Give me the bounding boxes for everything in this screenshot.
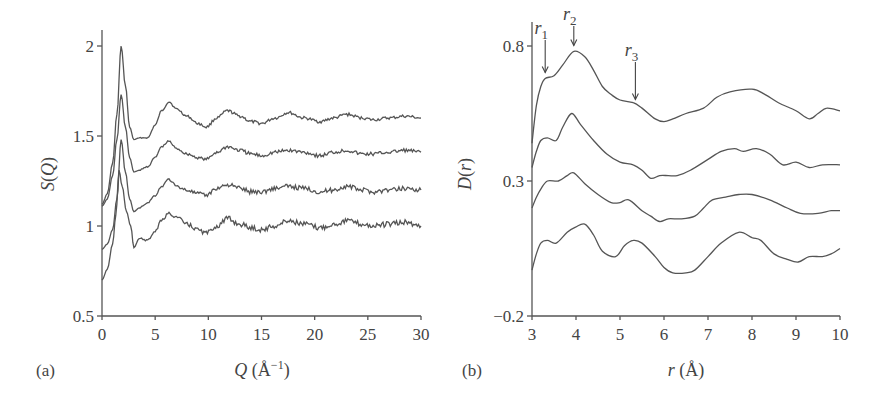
annotation-label-r2: r2 (563, 4, 577, 28)
x-tick-label: 0 (98, 325, 107, 344)
y-ticks-a: 0.511.52 (73, 37, 102, 326)
x-tick-label: 7 (704, 325, 713, 344)
curve-1 (102, 46, 421, 204)
panel-a-structure-factor: 0.511.52 051015202530 S(Q) Q (Å−1) (a) (36, 30, 430, 381)
x-ticks-a: 051015202530 (98, 316, 430, 344)
x-tick-label: 20 (306, 325, 323, 344)
curve-4 (102, 170, 421, 280)
x-tick-label: 9 (792, 325, 801, 344)
y-tick-label: 2 (86, 37, 95, 56)
curve-2 (532, 113, 840, 178)
y-tick-label: 1 (86, 217, 95, 236)
x-tick-label: 25 (359, 325, 376, 344)
y-axis-title-a: S(Q) (38, 157, 59, 191)
curve-3 (532, 173, 840, 222)
panel-label-a: (a) (36, 361, 55, 380)
x-tick-label: 4 (572, 325, 581, 344)
panel-label-b: (b) (462, 361, 482, 380)
x-tick-label: 3 (528, 325, 537, 344)
curve-1 (532, 51, 840, 143)
x-tick-label: 5 (151, 325, 160, 344)
x-tick-label: 30 (413, 325, 430, 344)
x-axis-title-b: r (Å) (668, 360, 705, 381)
y-tick-label: 0.3 (503, 172, 524, 191)
y-ticks-b: −0.20.30.8 (493, 37, 532, 326)
y-tick-label: 0.5 (73, 307, 94, 326)
x-tick-label: 5 (616, 325, 625, 344)
dr-curves (532, 51, 840, 273)
y-tick-label: 0.8 (503, 37, 524, 56)
peak-annotations: r1r2r3 (534, 4, 638, 99)
y-axis-title-b: D(r) (455, 158, 476, 191)
curve-2 (102, 95, 421, 207)
sq-curves (102, 46, 421, 280)
x-axis-title-a: Q (Å−1) (234, 358, 289, 381)
y-tick-label: −0.2 (493, 307, 524, 326)
annotation-label-r1: r1 (534, 18, 548, 42)
panel-b-differential-correlation: −0.20.30.8 345678910 r1r2r3 D(r) r (Å) (… (455, 4, 849, 381)
x-tick-label: 8 (748, 325, 757, 344)
x-tick-label: 10 (200, 325, 217, 344)
curve-4 (532, 224, 840, 274)
x-tick-label: 10 (832, 325, 849, 344)
x-ticks-b: 345678910 (528, 316, 849, 344)
x-tick-label: 6 (660, 325, 669, 344)
y-tick-label: 1.5 (73, 127, 94, 146)
annotation-label-r3: r3 (625, 40, 639, 64)
x-tick-label: 15 (253, 325, 270, 344)
figure: 0.511.52 051015202530 S(Q) Q (Å−1) (a) −… (0, 0, 875, 402)
